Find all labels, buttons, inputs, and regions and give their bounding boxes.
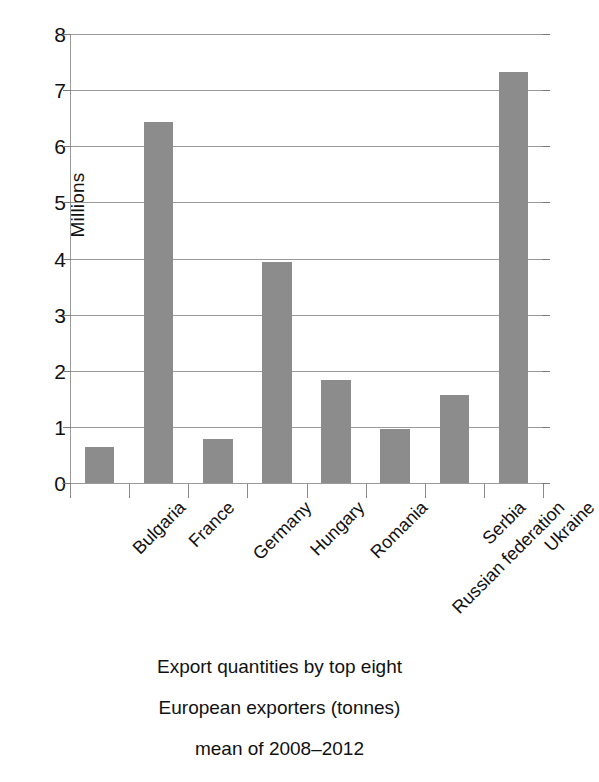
y-tick-mark bbox=[542, 259, 550, 260]
chart-caption: Export quantities by top eightEuropean e… bbox=[0, 646, 559, 769]
y-tick-mark bbox=[542, 315, 550, 316]
y-tick-mark bbox=[63, 34, 71, 35]
y-tick-mark bbox=[542, 371, 550, 372]
x-tick-mark bbox=[188, 484, 189, 498]
bar bbox=[203, 439, 233, 483]
x-tick-label: Hungary bbox=[307, 498, 368, 559]
x-tick-mark bbox=[307, 484, 308, 498]
y-tick-mark bbox=[542, 146, 550, 147]
y-tick-mark bbox=[63, 315, 71, 316]
y-tick-mark bbox=[542, 427, 550, 428]
bar bbox=[85, 447, 115, 483]
gridline bbox=[70, 427, 543, 428]
x-tick-mark bbox=[425, 484, 426, 498]
x-tick-mark bbox=[366, 484, 367, 498]
x-axis-tick-labels: BulgariaFranceGermanyHungaryRomaniaRussi… bbox=[0, 498, 559, 638]
y-tick-mark bbox=[63, 371, 71, 372]
caption-line: mean of 2008–2012 bbox=[0, 728, 559, 769]
y-tick-mark bbox=[542, 34, 550, 35]
gridline bbox=[70, 202, 543, 203]
x-tick-mark bbox=[129, 484, 130, 498]
x-tick-mark bbox=[247, 484, 248, 498]
bar bbox=[262, 262, 292, 483]
bar bbox=[321, 380, 351, 483]
y-tick-mark bbox=[63, 259, 71, 260]
bar bbox=[499, 72, 529, 483]
y-tick-mark bbox=[542, 90, 550, 91]
caption-line: Export quantities by top eight bbox=[0, 646, 559, 687]
bar bbox=[380, 429, 410, 483]
y-tick-mark bbox=[63, 427, 71, 428]
gridline bbox=[70, 146, 543, 147]
x-tick-mark bbox=[543, 484, 544, 498]
gridline bbox=[70, 90, 543, 91]
bar bbox=[440, 395, 470, 483]
gridline bbox=[70, 371, 543, 372]
gridline bbox=[70, 259, 543, 260]
x-tick-label: France bbox=[185, 498, 237, 550]
x-tick-label: Bulgaria bbox=[129, 498, 188, 557]
y-tick-mark bbox=[63, 90, 71, 91]
gridline bbox=[70, 315, 543, 316]
y-tick-mark bbox=[542, 202, 550, 203]
plot-area bbox=[70, 34, 543, 483]
y-tick-mark bbox=[63, 202, 71, 203]
caption-line: European exporters (tonnes) bbox=[0, 687, 559, 728]
x-tick-mark bbox=[484, 484, 485, 498]
bar bbox=[144, 122, 174, 483]
y-tick-mark bbox=[63, 146, 71, 147]
x-tick-label: Germany bbox=[249, 498, 314, 563]
gridline bbox=[70, 34, 543, 35]
x-tick-mark bbox=[70, 484, 71, 498]
x-tick-label: Romania bbox=[367, 498, 431, 562]
